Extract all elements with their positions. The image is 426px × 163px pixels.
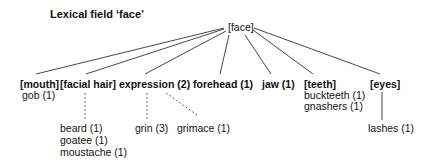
leaf-grin: grin (3) <box>135 122 168 134</box>
leaf-beard: beard (1) <box>60 122 103 134</box>
node-forehead: forehead (1) <box>193 78 253 90</box>
leaf-gob: gob (1) <box>22 89 55 101</box>
node-jaw: jaw (1) <box>262 78 295 90</box>
leaf-grimace: grimace (1) <box>177 122 230 134</box>
node-expression: expression (2) <box>119 78 190 90</box>
lexical-field-diagram: Lexical field ‘face’ [face] [mouth] [fac… <box>0 0 426 163</box>
edge-face-forehead <box>220 35 229 74</box>
diagram-title: Lexical field ‘face’ <box>50 8 144 20</box>
leaf-moustache: moustache (1) <box>60 146 127 158</box>
leaf-lashes: lashes (1) <box>368 122 414 134</box>
node-facial-hair: [facial hair] <box>60 78 116 90</box>
root-node-face: [face] <box>228 21 254 33</box>
node-eyes: [eyes] <box>370 78 400 90</box>
edge-expression-grimace <box>166 93 197 115</box>
edge-face-facial-hair <box>86 29 224 74</box>
edge-face-eyes <box>254 28 380 74</box>
edge-face-mouth <box>36 28 224 74</box>
edge-face-teeth <box>253 30 313 74</box>
leaf-gnashers: gnashers (1) <box>304 100 363 112</box>
leaf-goatee: goatee (1) <box>60 134 108 146</box>
